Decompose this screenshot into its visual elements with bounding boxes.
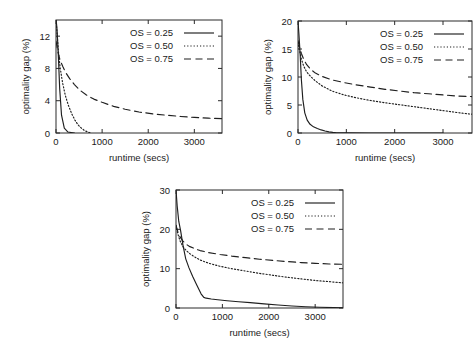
- x-tick-label: 0: [173, 311, 178, 322]
- y-axis-title: optimality gap (%): [140, 211, 151, 287]
- y-tick-label: 4: [45, 95, 50, 106]
- series-line-dotted: [176, 225, 343, 282]
- x-tick-label: 2000: [384, 136, 405, 147]
- plot-area-panel-bottom-center: 01000200030000102030runtime (secs)optima…: [112, 176, 362, 350]
- chart-panel-bottom-center: 01000200030000102030runtime (secs)optima…: [112, 176, 362, 350]
- y-tick-label: 30: [159, 185, 170, 196]
- legend-label: OS = 0.75: [130, 53, 173, 64]
- legend-label: OS = 0.50: [130, 40, 173, 51]
- x-tick-label: 2000: [258, 311, 279, 322]
- legend: OS = 0.25OS = 0.50OS = 0.75: [380, 28, 464, 65]
- legend-label: OS = 0.25: [130, 27, 173, 38]
- y-tick-label: 0: [287, 128, 292, 139]
- x-axis-title: runtime (secs): [229, 327, 289, 338]
- x-tick-label: 3000: [305, 311, 326, 322]
- y-tick-label: 0: [165, 303, 170, 314]
- chart-panel-top-left: 010002000300004812runtime (secs)optimali…: [0, 0, 236, 176]
- legend: OS = 0.25OS = 0.50OS = 0.75: [251, 197, 335, 234]
- x-tick-label: 3000: [184, 136, 205, 147]
- x-tick-label: 1000: [92, 136, 113, 147]
- y-tick-label: 12: [39, 31, 50, 42]
- figure-page: { "figure": { "background": "#ffffff", "…: [0, 0, 475, 350]
- legend-label: OS = 0.25: [251, 197, 294, 208]
- legend: OS = 0.25OS = 0.50OS = 0.75: [130, 27, 214, 64]
- plot-area-panel-top-left: 010002000300004812runtime (secs)optimali…: [0, 0, 236, 176]
- x-tick-label: 0: [295, 136, 300, 147]
- plot-area-panel-top-right: 010002000300005101520runtime (secs)optim…: [236, 0, 475, 176]
- y-tick-label: 0: [45, 128, 50, 139]
- chart-panel-top-right: 010002000300005101520runtime (secs)optim…: [236, 0, 475, 176]
- y-tick-label: 5: [287, 100, 292, 111]
- y-tick-label: 8: [45, 63, 50, 74]
- x-tick-label: 0: [53, 136, 58, 147]
- y-tick-label: 10: [281, 72, 292, 83]
- x-axis-title: runtime (secs): [355, 152, 415, 163]
- y-tick-label: 15: [281, 44, 292, 55]
- x-axis-title: runtime (secs): [109, 152, 169, 163]
- y-tick-label: 20: [281, 16, 292, 27]
- x-tick-label: 1000: [336, 136, 357, 147]
- y-axis-title: optimality gap (%): [20, 38, 31, 114]
- series-line-solid: [56, 20, 74, 133]
- legend-label: OS = 0.50: [251, 210, 294, 221]
- y-axis-title: optimality gap (%): [262, 39, 273, 115]
- x-tick-label: 1000: [212, 311, 233, 322]
- legend-label: OS = 0.50: [380, 41, 423, 52]
- legend-label: OS = 0.75: [251, 223, 294, 234]
- legend-label: OS = 0.75: [380, 54, 423, 65]
- legend-label: OS = 0.25: [380, 28, 423, 39]
- y-tick-label: 10: [159, 263, 170, 274]
- x-tick-label: 2000: [138, 136, 159, 147]
- y-tick-label: 20: [159, 224, 170, 235]
- x-tick-label: 3000: [432, 136, 453, 147]
